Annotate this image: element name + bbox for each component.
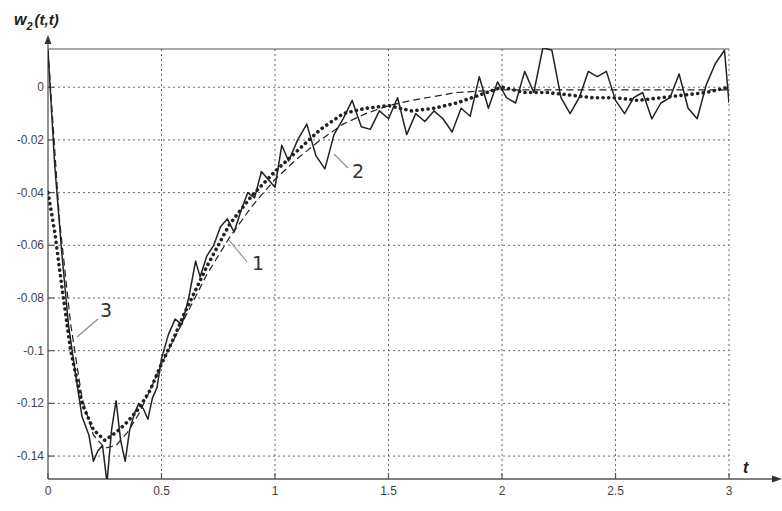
- x-tick-label: 0: [45, 484, 52, 498]
- x-axis-ticks: 00.511.522.53: [45, 473, 733, 498]
- annotation-label-3: 3: [100, 299, 112, 321]
- y-tick-label: -0.14: [17, 449, 45, 463]
- y-tick-label: -0.08: [17, 291, 45, 305]
- y-tick-label: -0.04: [17, 186, 45, 200]
- x-tick-label: 2: [499, 484, 506, 498]
- x-axis-label: t: [743, 459, 749, 476]
- x-tick-label: 3: [726, 484, 733, 498]
- x-tick-label: 2.5: [607, 484, 624, 498]
- annotation-leader-line: [77, 319, 98, 337]
- y-tick-label: -0.12: [17, 396, 45, 410]
- annotation-label-2: 2: [352, 160, 364, 182]
- y-tick-label: -0.02: [17, 133, 45, 147]
- y-tick-label: 0: [37, 80, 44, 94]
- annotation-leader-line: [334, 154, 348, 168]
- y-tick-label: -0.1: [23, 344, 44, 358]
- annotation-label-1: 1: [252, 252, 264, 274]
- x-tick-label: 0.5: [153, 484, 170, 498]
- x-tick-label: 1: [272, 484, 279, 498]
- x-axis-arrow-icon: [772, 476, 782, 483]
- x-tick-label: 1.5: [380, 484, 397, 498]
- y-axis-arrow-icon: [45, 35, 52, 44]
- annotation-leader-line: [229, 240, 247, 262]
- y-axis-label: w2(t,t): [14, 11, 59, 32]
- chart-canvas: 00.511.522.53 0-0.02-0.04-0.06-0.08-0.1-…: [0, 0, 782, 511]
- grid-lines: [48, 49, 729, 479]
- curve-annotations: 123: [77, 154, 364, 337]
- y-tick-label: -0.06: [17, 238, 45, 252]
